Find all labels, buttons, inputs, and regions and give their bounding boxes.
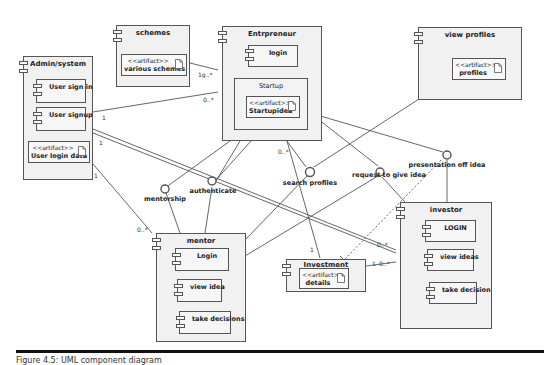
- interface-label-authenticate: authenticate: [190, 187, 237, 195]
- component-schemes[interactable]: schemes <<artifact>> various schemes: [116, 25, 190, 87]
- subcomponent-label: take decisions: [192, 315, 228, 323]
- artifact-details[interactable]: <<artifact>> details: [299, 268, 349, 289]
- document-icon: [494, 63, 502, 73]
- subcomponent-login[interactable]: Login: [175, 248, 229, 271]
- multiplicity-label: 0..*: [377, 241, 388, 248]
- subcomponent-view-idea[interactable]: view idea: [177, 279, 222, 302]
- interface-label-mentorship: mentorship: [144, 195, 186, 203]
- subcomponent-user-sign-in[interactable]: User sign in: [36, 79, 86, 103]
- component-icon: [426, 287, 435, 301]
- component-investment[interactable]: Investment <<artifact>> details: [286, 259, 366, 292]
- multiplicity-label: 0..*: [379, 260, 390, 267]
- container-label: Startup: [235, 82, 307, 90]
- subcomponent-label: Login: [188, 252, 226, 260]
- artifact-various-schemes[interactable]: <<artifact>> various schemes: [121, 54, 187, 76]
- artifact-label: various schemes: [124, 65, 172, 73]
- artifact-label: profiles: [455, 69, 491, 77]
- presentation-interface-icon: [443, 151, 451, 159]
- subcomponent-label: User signup: [49, 111, 83, 119]
- subcomponent-label: LOGIN: [438, 224, 473, 232]
- component-title: Entrpreneur: [223, 30, 321, 38]
- artifact-stereotype: <<artifact>>: [249, 99, 285, 106]
- multiplicity-label: 1: [102, 114, 106, 121]
- subcomponent-take-decision[interactable]: take decision: [429, 282, 477, 304]
- multiplicity-label: 1g..*: [198, 71, 212, 78]
- component-icon: [174, 284, 183, 298]
- divider: [16, 350, 544, 353]
- artifact-stereotype: <<artifact>>: [124, 57, 172, 64]
- subcomponent-label: take decision: [442, 286, 474, 294]
- document-icon: [288, 101, 296, 111]
- artifact-profiles[interactable]: <<artifact>> profiles: [452, 58, 506, 80]
- subcomponent-login[interactable]: LOGIN: [425, 220, 476, 242]
- interface-label-presentation: presentation off idea: [408, 161, 485, 169]
- component-investor[interactable]: investor LOGIN view ideas take decision: [400, 202, 492, 329]
- component-title: investor: [401, 206, 491, 214]
- artifact-startupidea[interactable]: <<artifact>> Startupidea: [246, 96, 300, 118]
- mentorship-interface-icon: [161, 185, 169, 193]
- interface-label-request-idea: request to give idea: [352, 171, 426, 179]
- artifact-user-login-data[interactable]: <<artifact>> User login data: [28, 141, 90, 163]
- component-icon: [245, 49, 254, 63]
- multiplicity-label: 0..*: [278, 148, 289, 155]
- subcomponent-user-signup[interactable]: User signup: [36, 107, 86, 131]
- artifact-label: details: [302, 279, 334, 287]
- multiplicity-label: 0..*: [137, 226, 148, 233]
- component-title: mentor: [157, 237, 245, 245]
- component-icon: [33, 84, 42, 98]
- component-title: view profiles: [419, 31, 521, 39]
- component-admin-system[interactable]: Admin/system User sign in User signup <<…: [23, 56, 93, 180]
- component-view-profiles[interactable]: view profiles <<artifact>> profiles: [418, 27, 522, 100]
- artifact-label: User login data: [31, 152, 75, 160]
- subcomponent-take-decisions[interactable]: take decisions: [179, 311, 231, 334]
- container-startup[interactable]: Startup <<artifact>> Startupidea: [234, 78, 308, 130]
- document-icon: [337, 273, 345, 283]
- component-title: schemes: [117, 29, 189, 37]
- subcomponent-login[interactable]: login: [248, 45, 298, 67]
- interface-label-search-profiles: search profiles: [283, 179, 337, 187]
- subcomponent-label: User sign in: [49, 83, 83, 91]
- multiplicity-label: 1: [372, 260, 376, 267]
- artifact-stereotype: <<artifact>>: [302, 271, 334, 278]
- subcomponent-label: view idea: [190, 283, 219, 291]
- multiplicity-label: 1: [310, 246, 314, 253]
- document-icon: [78, 146, 86, 156]
- component-icon: [172, 253, 181, 267]
- multiplicity-label: 0..*: [203, 96, 214, 103]
- component-icon: [33, 112, 42, 126]
- component-icon: [176, 316, 185, 330]
- component-icon: [424, 254, 433, 268]
- artifact-label: Startupidea: [249, 107, 285, 115]
- component-mentor[interactable]: mentor Login view idea take decisions: [156, 233, 246, 342]
- multiplicity-label: 1: [94, 172, 98, 179]
- multiplicity-label: 1: [99, 139, 103, 146]
- authenticate-interface-icon: [208, 177, 216, 185]
- subcomponent-view-ideas[interactable]: view ideas: [427, 249, 474, 271]
- component-entrepreneur[interactable]: Entrpreneur login Startup <<artifact>> S…: [222, 26, 322, 141]
- artifact-stereotype: <<artifact>>: [455, 61, 491, 68]
- document-icon: [175, 59, 183, 69]
- component-title: Admin/system: [24, 60, 92, 68]
- artifact-stereotype: <<artifact>>: [31, 144, 75, 151]
- subcomponent-label: login: [261, 49, 295, 57]
- subcomponent-label: view ideas: [440, 253, 471, 261]
- component-icon: [422, 225, 431, 239]
- figure-caption: Figure 4.5: UML component diagram: [16, 356, 162, 365]
- search-profiles-interface-icon: [306, 168, 315, 177]
